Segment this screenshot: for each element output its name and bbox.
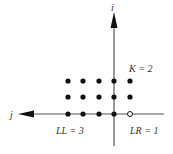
grid-point [80, 78, 85, 83]
grid-point [127, 78, 132, 83]
grid-point [65, 111, 70, 116]
grid-point [96, 78, 101, 83]
axis-label-i: i [111, 2, 114, 13]
grid-point [80, 111, 85, 116]
axis-label-j: j [8, 109, 13, 120]
open-point [128, 112, 133, 117]
grid-point [127, 94, 132, 99]
grid-point [80, 94, 85, 99]
grid-point [96, 94, 101, 99]
grid-point [65, 94, 70, 99]
arrow-up-icon [111, 12, 118, 28]
label-ll: LL = 3 [55, 125, 84, 136]
point-grid [65, 78, 132, 116]
arrow-left-icon [18, 111, 34, 118]
grid-point [65, 78, 70, 83]
grid-point [111, 94, 116, 99]
grid-point [96, 111, 101, 116]
grid-point [111, 78, 116, 83]
lattice-diagram: i j K = 2 LL = 3 LR = 1 [0, 0, 173, 154]
label-lr: LR = 1 [129, 125, 158, 136]
label-k: K = 2 [128, 63, 152, 74]
horizontal-axis [18, 111, 164, 118]
grid-point [111, 111, 116, 116]
